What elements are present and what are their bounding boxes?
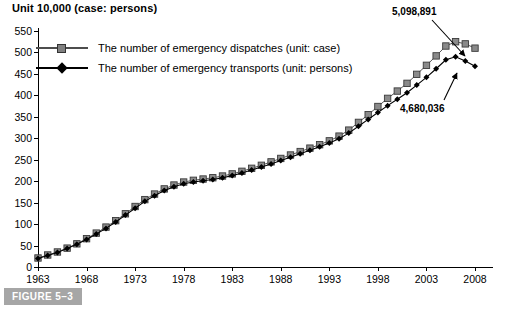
figure-caption: FIGURE 5–3: [4, 288, 82, 305]
annotation-arrows: [0, 0, 506, 310]
figure-container: Unit 10,000 (case: persons) 050100150200…: [0, 0, 506, 310]
